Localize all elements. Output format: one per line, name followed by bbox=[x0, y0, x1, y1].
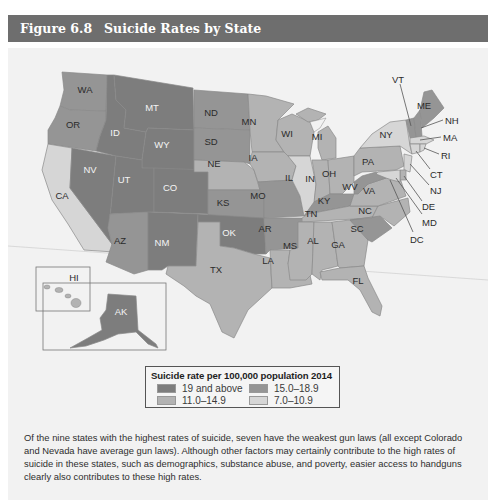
label-la: LA bbox=[262, 255, 274, 266]
legend-label: 19 and above bbox=[182, 383, 243, 394]
leader-nj bbox=[410, 164, 429, 185]
label-va: VA bbox=[363, 185, 376, 196]
label-co: CO bbox=[163, 182, 177, 193]
leader-ri bbox=[424, 148, 439, 154]
legend-swatch-light bbox=[249, 396, 268, 405]
label-al: AL bbox=[307, 235, 319, 246]
legend-title: Suicide rate per 100,000 population 2014 bbox=[151, 370, 334, 381]
label-nm: NM bbox=[155, 237, 170, 248]
label-ca: CA bbox=[55, 190, 69, 201]
callout-ri: RI bbox=[441, 150, 451, 161]
label-ia: IA bbox=[249, 152, 259, 163]
label-ak: AK bbox=[115, 306, 128, 317]
label-wa: WA bbox=[78, 84, 94, 95]
label-ut: UT bbox=[118, 174, 131, 185]
legend-item-11-14-9: 11.0–14.9 bbox=[157, 395, 249, 406]
callout-md: MD bbox=[422, 217, 437, 228]
state-ak bbox=[70, 294, 158, 348]
label-ne: NE bbox=[207, 158, 220, 169]
label-mi: MI bbox=[312, 131, 323, 142]
label-nv: NV bbox=[83, 164, 97, 175]
figure-number: Figure 6.8 bbox=[20, 21, 92, 36]
label-hi: HI bbox=[69, 272, 79, 283]
label-mt: MT bbox=[145, 102, 159, 113]
label-tn: TN bbox=[305, 208, 318, 219]
callout-nh: NH bbox=[445, 115, 459, 126]
legend-item-19-and-above: 19 and above bbox=[157, 383, 249, 394]
leader-ct bbox=[416, 151, 430, 169]
label-sd: SD bbox=[204, 136, 217, 147]
label-id: ID bbox=[110, 127, 120, 138]
callout-ct: CT bbox=[430, 169, 443, 180]
callout-nj: NJ bbox=[430, 185, 442, 196]
state-nj bbox=[404, 154, 412, 172]
label-ar: AR bbox=[258, 223, 271, 234]
callout-de: DE bbox=[422, 201, 435, 212]
callout-vt: VT bbox=[392, 74, 404, 85]
label-sc: SC bbox=[350, 223, 363, 234]
state-ri bbox=[420, 144, 426, 152]
label-ky: KY bbox=[318, 195, 331, 206]
leader-de bbox=[404, 176, 422, 201]
label-fl: FL bbox=[352, 275, 363, 286]
label-tx: TX bbox=[210, 264, 223, 275]
legend-swatch-dark bbox=[249, 384, 268, 393]
state-wy bbox=[142, 128, 194, 172]
label-mo: MO bbox=[250, 190, 265, 201]
state-sd bbox=[194, 128, 250, 164]
legend-swatch-darkest bbox=[157, 384, 176, 393]
legend-label: 15.0–18.9 bbox=[274, 383, 319, 394]
label-pa: PA bbox=[362, 156, 375, 167]
state-hi bbox=[44, 285, 81, 308]
legend-item-7-10-9: 7.0–10.9 bbox=[249, 395, 339, 406]
label-ok: OK bbox=[222, 227, 236, 238]
state-ct bbox=[410, 144, 420, 154]
label-wy: WY bbox=[154, 139, 170, 150]
label-il: IL bbox=[285, 172, 293, 183]
state-fl bbox=[320, 266, 382, 316]
legend-item-15-18-9: 15.0–18.9 bbox=[249, 383, 339, 394]
figure-panel: WA OR CA NV ID MT WY UT CO AZ NM ND SD N… bbox=[8, 48, 488, 500]
legend-label: 11.0–14.9 bbox=[182, 395, 226, 406]
label-ms: MS bbox=[283, 240, 297, 251]
state-az bbox=[106, 212, 148, 274]
label-mn: MN bbox=[242, 116, 257, 127]
label-in: IN bbox=[305, 173, 315, 184]
label-wi: WI bbox=[281, 128, 293, 139]
label-nc: NC bbox=[358, 205, 372, 216]
figure-header: Figure 6.8 Suicide Rates by State bbox=[8, 15, 488, 42]
label-ny: NY bbox=[379, 129, 393, 140]
label-wv: WV bbox=[342, 181, 358, 192]
legend-swatch-medium bbox=[157, 396, 176, 405]
label-oh: OH bbox=[322, 168, 336, 179]
callout-dc: DC bbox=[410, 234, 424, 245]
legend-label: 7.0–10.9 bbox=[274, 395, 313, 406]
figure-caption: Of the nine states with the highest rate… bbox=[24, 431, 480, 483]
label-or: OR bbox=[66, 119, 80, 130]
callout-ma: MA bbox=[443, 132, 458, 143]
label-az: AZ bbox=[114, 235, 126, 246]
map-legend: Suicide rate per 100,000 population 2014… bbox=[145, 366, 340, 408]
figure-title: Suicide Rates by State bbox=[104, 21, 261, 36]
label-ga: GA bbox=[331, 239, 345, 250]
label-me: ME bbox=[417, 100, 431, 111]
leader-vt bbox=[400, 84, 411, 126]
label-nd: ND bbox=[204, 107, 218, 118]
label-ks: KS bbox=[217, 197, 230, 208]
state-de bbox=[400, 170, 406, 180]
